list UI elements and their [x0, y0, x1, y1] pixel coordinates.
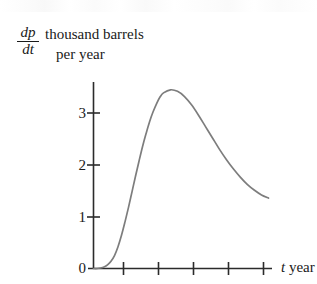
x-axis-variable: t — [281, 259, 285, 275]
plot-area — [0, 0, 317, 284]
y-tick-label-2: 2 — [70, 158, 86, 173]
x-axis-units: year — [289, 259, 315, 275]
plot-svg — [0, 0, 317, 284]
y-tick-label-0: 0 — [70, 261, 86, 276]
y-tick-label-3: 3 — [70, 106, 86, 121]
production-rate-curve — [94, 90, 269, 269]
x-axis-caption: t year — [281, 260, 315, 275]
rate-of-production-figure: dp dt thousand barrels per year — [0, 0, 317, 284]
y-tick-label-1: 1 — [70, 210, 86, 225]
